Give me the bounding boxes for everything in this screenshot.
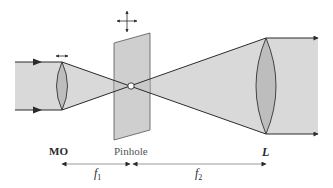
pinhole-xy-translation-icon [117,11,137,32]
label-lens: L [262,145,269,160]
f1-subscript: 1 [97,173,101,182]
label-microscope-objective: MO [49,145,68,157]
diverging-beam [131,38,266,134]
f2-subscript: 2 [198,173,202,182]
label-pinhole: Pinhole [114,145,148,157]
pinhole-aperture [128,83,134,89]
input-beam [15,62,63,110]
label-f2: f2 [195,166,202,182]
label-f1: f1 [94,166,101,182]
spatial-filter-diagram [0,0,333,188]
